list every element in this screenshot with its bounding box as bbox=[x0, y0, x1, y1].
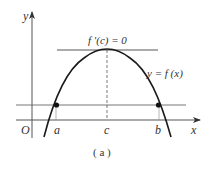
y-axis-label: y bbox=[22, 9, 29, 23]
point-a bbox=[54, 102, 59, 107]
x-axis-label: x bbox=[190, 123, 197, 137]
origin-label: O bbox=[21, 123, 30, 137]
figure-caption: ( a ) bbox=[93, 146, 111, 159]
point-c-label: c bbox=[104, 123, 110, 137]
curve-label: y = f (x) bbox=[146, 67, 183, 80]
tangent-label: f ′(c) = 0 bbox=[88, 34, 127, 47]
rolle-theorem-diagram: y x O f ′(c) = 0 y = f (x) a c b ( a ) bbox=[0, 0, 211, 170]
point-b bbox=[156, 102, 161, 107]
point-a-label: a bbox=[54, 123, 60, 137]
point-b-label: b bbox=[155, 123, 161, 137]
